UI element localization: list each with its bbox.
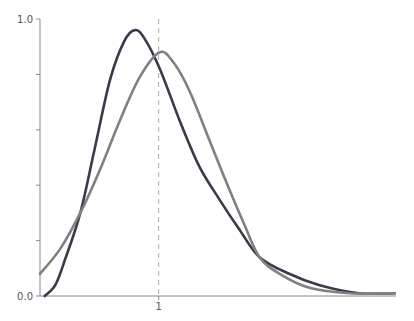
y-tick-label: 1.0 [17,14,33,25]
y-ticks: 0.01.0 [17,14,40,302]
x-tick-label: 1 [155,301,161,312]
axes: 0.01.0 1 [17,14,396,313]
chart: 0.01.0 1 [0,0,414,321]
series-group [40,30,395,296]
y-tick-label: 0.0 [17,291,33,302]
gray-curve [40,52,395,294]
x-ticks: 1 [155,296,161,312]
